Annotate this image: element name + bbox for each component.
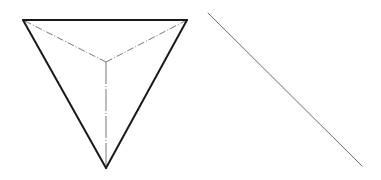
tetrahedron-hidden-edges	[23, 20, 187, 168]
diagonal-line-figure	[208, 13, 362, 166]
tetrahedron-solid-edges	[23, 20, 187, 168]
tetrahedron-figure	[23, 20, 187, 168]
left-edge	[23, 20, 106, 168]
right-edge	[106, 20, 187, 168]
figure-canvas	[0, 0, 381, 180]
geometry-diagram	[0, 0, 381, 180]
diagonal-line	[208, 13, 362, 166]
